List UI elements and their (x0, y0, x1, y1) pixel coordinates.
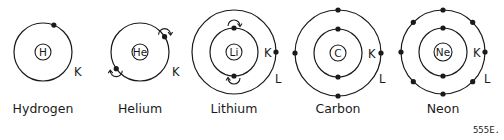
electron (378, 50, 383, 55)
figure-id: 555E. (473, 125, 500, 135)
electron (162, 34, 167, 39)
electron (470, 20, 475, 25)
nucleus-symbol: Ne (436, 46, 450, 58)
shell-label: K (473, 46, 481, 60)
electron (114, 66, 119, 71)
electron (335, 26, 340, 31)
element-name: Neon (427, 101, 460, 116)
electron (273, 49, 278, 54)
electron (440, 91, 445, 96)
electron (411, 79, 416, 84)
shell-label: K (264, 46, 272, 60)
atom-carbon: CKLCarbon (292, 7, 386, 116)
electron (51, 23, 56, 28)
electron (411, 20, 416, 25)
electron (335, 74, 340, 79)
element-name: Helium (118, 101, 162, 116)
electron (231, 25, 236, 30)
shell-label: L (484, 72, 491, 86)
atom-lithium: LiKLLithium (192, 10, 282, 116)
shell-label: K (74, 65, 82, 79)
electron (335, 7, 340, 12)
nucleus-symbol: H (39, 46, 47, 58)
electron (440, 25, 445, 30)
element-name: Hydrogen (13, 101, 74, 116)
electron (398, 49, 403, 54)
shell-label: K (172, 65, 180, 79)
nucleus-symbol: He (133, 46, 147, 58)
atom-hydrogen: HKHydrogen (13, 23, 82, 116)
electron (440, 7, 445, 12)
shell-label: L (275, 72, 282, 86)
element-name: Carbon (315, 101, 360, 116)
electron (335, 93, 340, 98)
nucleus-symbol: C (334, 47, 341, 59)
bohr-model-diagram: HKHydrogenHeKHeliumLiKLLithiumCKLCarbonN… (0, 0, 504, 140)
electron (482, 49, 487, 54)
nucleus-symbol: Li (230, 46, 239, 58)
electron (440, 73, 445, 78)
electron (470, 79, 475, 84)
shell-label: K (368, 47, 376, 61)
element-name: Lithium (211, 101, 258, 116)
electron (292, 50, 297, 55)
atom-helium: HeKHelium (108, 23, 180, 116)
shell-label: L (379, 72, 386, 86)
atom-neon: NeKLNeon (398, 7, 491, 116)
electron (231, 73, 236, 78)
